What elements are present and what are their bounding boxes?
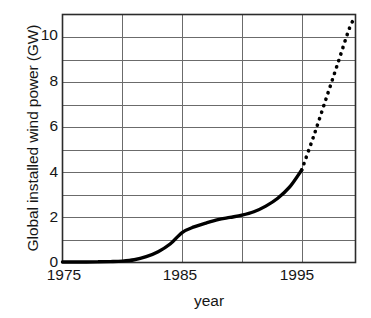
- plot-area: [0, 0, 371, 318]
- series-line-projected: [302, 17, 356, 170]
- chart-figure: Global installed wind power (GW) 0 2 4 6…: [0, 0, 371, 318]
